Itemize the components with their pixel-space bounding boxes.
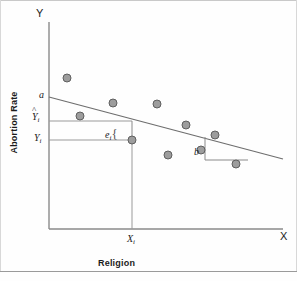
y-axis-title: Abortion Rate [10,88,19,158]
residual-brace-icon: { [111,126,117,141]
slope-label: b [194,147,199,157]
observed-value-label: Yi [34,133,42,145]
x-tick-subscript: i [133,238,135,246]
residual-label: ei{ [105,127,118,142]
observed-value-subscript: i [40,137,42,145]
predicted-value-label: ^Yi [32,112,40,124]
scatter-point [63,74,71,82]
y-axis-letter: Y [36,8,43,19]
scatter-point [232,160,240,168]
scatter-point [211,131,219,139]
x-tick-label: Xi [127,234,135,246]
scatter-point [76,112,84,120]
x-axis-title: Religion [98,259,135,268]
x-axis-letter: X [280,231,287,242]
regression-scatter-figure: Y X Abortion Rate Religion a ^Yi Yi ei{ … [0,0,297,281]
scatter-point [182,121,190,129]
scatter-point [153,100,161,108]
intercept-label: a [39,90,44,100]
scatter-point [109,99,117,107]
hat-accent-icon: ^ [32,106,36,115]
predicted-value-symbol: ^Y [32,112,38,122]
scatter-point [164,151,172,159]
regression-line [49,97,283,159]
plot-canvas [0,0,297,281]
scatter-point-highlighted [128,136,136,144]
